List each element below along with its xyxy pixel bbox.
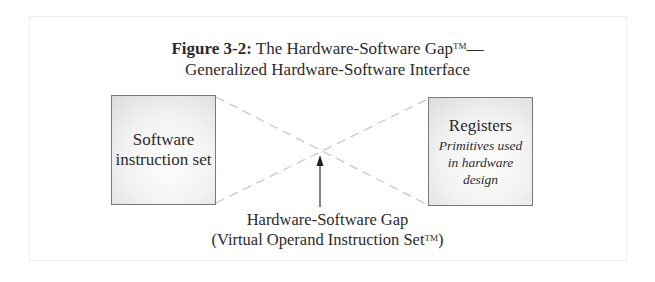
gap-caption-close-paren: )	[438, 230, 444, 249]
registers-title: Registers	[449, 115, 512, 137]
arrow-up-icon	[317, 155, 324, 166]
gap-caption-line2: (Virtual Operand Instruction SetTM)	[0, 230, 655, 250]
gap-caption-line1: Hardware-Software Gap	[0, 210, 655, 230]
software-instruction-set-box: Software instruction set	[111, 95, 216, 205]
gap-caption-text: (Virtual Operand Instruction Set	[212, 230, 425, 249]
registers-desc-line1: Primitives used	[439, 137, 523, 154]
trademark-mark: TM	[425, 233, 439, 243]
registers-desc-line3: design	[463, 171, 498, 188]
left-box-line1: Software	[133, 130, 194, 150]
left-box-line2: instruction set	[116, 150, 212, 170]
registers-desc-line2: in hardware	[448, 154, 513, 171]
dashed-line-top-left-to-bottom-right	[216, 97, 428, 205]
gap-caption: Hardware-Software Gap (Virtual Operand I…	[0, 210, 655, 250]
registers-box: Registers Primitives used in hardware de…	[428, 97, 533, 206]
dashed-line-bottom-left-to-top-right	[216, 99, 428, 203]
